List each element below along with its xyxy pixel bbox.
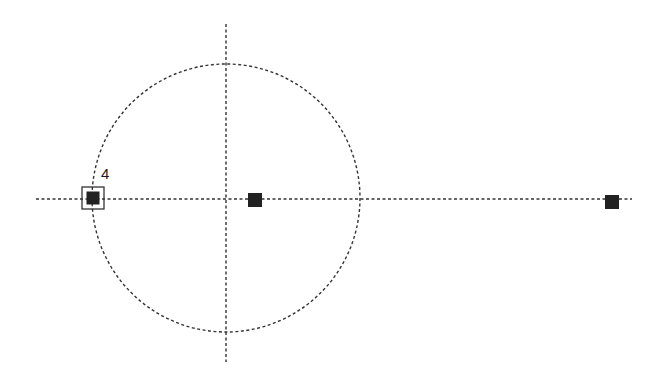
point-1-marker[interactable] <box>87 192 100 205</box>
diagram-canvas <box>0 0 656 376</box>
point-label: 4 <box>101 166 109 181</box>
points-group <box>82 187 619 209</box>
point-3-marker[interactable] <box>605 195 619 209</box>
dashed-circle <box>92 64 360 332</box>
point-2-marker[interactable] <box>248 193 262 207</box>
